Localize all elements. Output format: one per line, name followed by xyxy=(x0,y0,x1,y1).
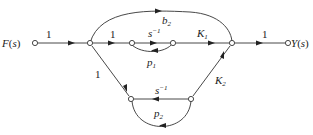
arrow-icon xyxy=(208,41,215,46)
output-label: Y(s) xyxy=(291,37,309,50)
arrow-icon xyxy=(155,9,162,14)
node-n6 xyxy=(188,96,193,101)
input-label: F(s) xyxy=(1,37,21,50)
gain-label-1d: 1 xyxy=(262,28,268,40)
arrow-icon xyxy=(220,51,224,59)
gain-label-1b: 1 xyxy=(110,28,116,40)
gain-label-s-inv-top: s−1 xyxy=(148,27,161,39)
node-input xyxy=(32,40,37,45)
gain-label-p1: p1 xyxy=(146,56,156,70)
arrow-icon xyxy=(159,123,166,128)
node-output xyxy=(285,40,290,45)
diagram-svg: F(s) Y(s) 1 1 1 1 b2 s−1 K1 p1 K2 s−1 p2 xyxy=(0,0,313,135)
arrow-icon xyxy=(152,97,159,102)
arrow-icon xyxy=(256,41,263,46)
gain-label-K1: K1 xyxy=(196,27,208,41)
signal-flow-graph: F(s) Y(s) 1 1 1 1 b2 s−1 K1 p1 K2 s−1 p2 xyxy=(0,0,313,135)
node-n5 xyxy=(128,96,133,101)
node-n1 xyxy=(87,40,92,45)
node-n2 xyxy=(129,40,134,45)
gain-label-p2: p2 xyxy=(153,107,164,121)
edge-K2 xyxy=(193,46,230,96)
arrow-icon xyxy=(151,48,158,53)
arrow-icon xyxy=(108,41,115,46)
arrow-icon xyxy=(68,41,75,46)
gain-label-1a: 1 xyxy=(46,28,52,40)
gain-label-1c: 1 xyxy=(95,68,101,80)
gain-label-b2: b2 xyxy=(162,14,172,28)
arrow-icon xyxy=(150,41,157,46)
gain-label-K2: K2 xyxy=(214,74,226,88)
node-n4 xyxy=(229,40,234,45)
gain-label-s-inv-bot: s−1 xyxy=(155,84,168,96)
node-n3 xyxy=(170,40,175,45)
